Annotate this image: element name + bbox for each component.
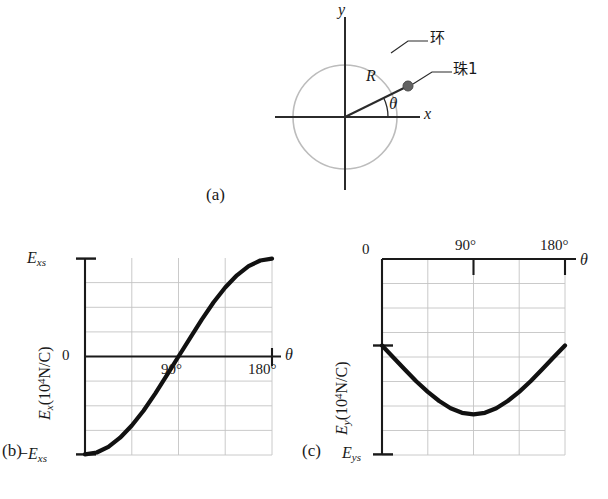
x-axis-label: x bbox=[424, 106, 431, 122]
ytick-label-bottom: Eys bbox=[342, 445, 361, 463]
ring-leader-line bbox=[391, 41, 428, 53]
angle-arc bbox=[384, 98, 389, 118]
y-axis-title: Ex(104N/C) bbox=[36, 347, 55, 421]
radius-line bbox=[345, 86, 408, 117]
x-axis-label: θ bbox=[285, 347, 293, 363]
y-axis-title-text: Ey(104N/C) bbox=[333, 362, 350, 436]
ytick-label-zero: 0 bbox=[62, 348, 70, 363]
ytick-label-zero: 0 bbox=[362, 242, 370, 257]
panel-a-tag: (a) bbox=[206, 186, 225, 203]
bead-marker bbox=[403, 81, 413, 91]
xtick-label-180: 180° bbox=[540, 238, 569, 253]
panel-b-tag: (b) bbox=[2, 442, 22, 459]
y-axis-title-text: Ex(104N/C) bbox=[36, 347, 53, 421]
y-axis-label: y bbox=[338, 2, 345, 18]
panel-c-tag: (c) bbox=[302, 442, 321, 459]
y-axis-title: Ey(104N/C) bbox=[333, 362, 352, 436]
xtick-label-90: 90° bbox=[161, 362, 182, 377]
panel-b-ex-chart: Ex(104N/C) Exs 0 −Exs 90° 180° θ (b) bbox=[0, 230, 300, 499]
x-axis-label: θ bbox=[580, 252, 588, 268]
ytick-label-top: Exs bbox=[27, 250, 46, 268]
radius-label: R bbox=[366, 68, 376, 84]
xtick-label-90: 90° bbox=[455, 238, 476, 253]
physics-figure: y x R θ 环 珠1 (a) bbox=[0, 0, 608, 499]
panel-a-ring-diagram: y x R θ 环 珠1 (a) bbox=[170, 0, 470, 225]
ytick-label-bottom: −Exs bbox=[19, 446, 47, 464]
bead-label: 珠1 bbox=[453, 62, 478, 77]
panel-c-ey-chart: Ey(104N/C) 0 Eys 90° 180° θ (c) bbox=[300, 230, 608, 499]
xtick-label-180: 180° bbox=[248, 362, 277, 377]
ring-label: 环 bbox=[430, 31, 445, 46]
angle-label: θ bbox=[389, 95, 397, 112]
bead-leader-line bbox=[413, 72, 452, 84]
